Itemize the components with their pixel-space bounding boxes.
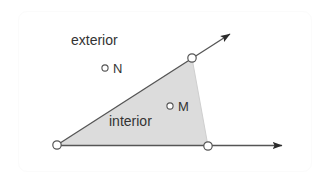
angle-graphic [0,0,330,183]
point-m-marker [167,103,173,109]
vertex-point-marker [53,141,61,149]
point-n-label: N [113,62,122,75]
point-m-label: M [178,100,189,113]
angle-diagram: exterior interior N M [0,0,330,183]
point-n-marker [102,65,108,71]
interior-label: interior [109,114,152,128]
exterior-label: exterior [71,33,118,47]
upper-ray-point-marker [188,54,196,62]
lower-ray-point-marker [204,142,212,150]
